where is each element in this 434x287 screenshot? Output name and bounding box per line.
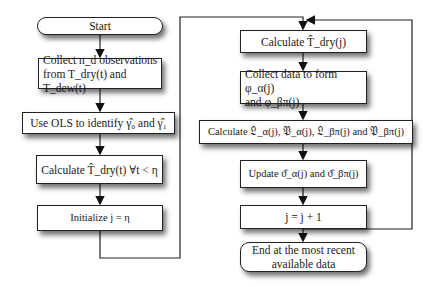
start-label: Start bbox=[89, 19, 111, 33]
initialize-j-label: Initialize j = η bbox=[70, 211, 130, 225]
end-label: End at the most recent available data bbox=[252, 243, 355, 271]
increment-j-label: j = j + 1 bbox=[285, 210, 322, 224]
update-theta-label: Update ϑ̂_α(j) and ϑ̂_βπ(j) bbox=[248, 167, 358, 181]
collect-observations-node: Collect n_d observations from T_dry(t) a… bbox=[38, 58, 162, 89]
collect-observations-label: Collect n_d observations from T_dry(t) a… bbox=[43, 53, 158, 95]
collect-phi-label: Collect data to form φ_α(j) and φ_βπ(j) bbox=[245, 67, 363, 109]
end-node: End at the most recent available data bbox=[240, 242, 367, 272]
calculate-tdry-j-node: Calculate T̂_dry(j) bbox=[240, 30, 367, 53]
calculate-l-p-label: Calculate 𝔏_α(j), 𝔓_α(j), 𝔏_βπ(j) and 𝔓_… bbox=[208, 125, 404, 139]
calculate-tdry-t-label: Calculate T̂_dry(t) ∀t < η bbox=[41, 163, 157, 177]
update-theta-node: Update ϑ̂_α(j) and ϑ̂_βπ(j) bbox=[240, 160, 367, 188]
ols-identify-node: Use OLS to identify γ̂₀ and γ̂₁ bbox=[22, 112, 175, 134]
calculate-l-p-node: Calculate 𝔏_α(j), 𝔓_α(j), 𝔏_βπ(j) and 𝔓_… bbox=[199, 120, 413, 144]
collect-phi-node: Collect data to form φ_α(j) and φ_βπ(j) bbox=[240, 71, 367, 104]
start-node: Start bbox=[37, 17, 163, 35]
calculate-tdry-t-node: Calculate T̂_dry(t) ∀t < η bbox=[36, 155, 163, 184]
initialize-j-node: Initialize j = η bbox=[37, 205, 163, 231]
ols-identify-label: Use OLS to identify γ̂₀ and γ̂₁ bbox=[30, 116, 166, 130]
calculate-tdry-j-label: Calculate T̂_dry(j) bbox=[261, 35, 346, 49]
increment-j-node: j = j + 1 bbox=[240, 205, 367, 229]
